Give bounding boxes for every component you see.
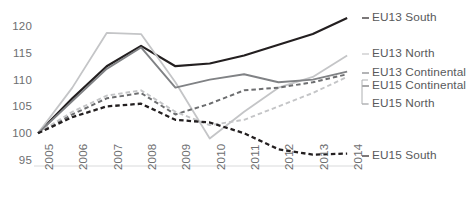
legend-label-eu15-continental: EU15 Continental (372, 79, 466, 92)
x-axis-tick-label: 2014 (352, 144, 364, 170)
y-axis-tick-label: 110 (4, 74, 32, 86)
series-line-eu15-north (38, 77, 347, 133)
y-axis-tick-label: 105 (4, 100, 32, 112)
legend-bracket-icon (362, 80, 368, 104)
y-axis-tick-label: 120 (4, 20, 32, 32)
legend-label-eu15-south: EU15 South (372, 149, 437, 162)
x-axis-tick-label: 2007 (112, 144, 124, 170)
x-axis-tick-label: 2011 (249, 144, 261, 170)
x-axis-tick-label: 2008 (146, 144, 158, 170)
x-axis-tick-label: 2010 (215, 144, 227, 170)
x-axis-tick-label: 2006 (77, 144, 89, 170)
series-line-eu13-continental (38, 47, 347, 133)
x-axis-tick-label: 2012 (283, 144, 295, 170)
legend-label-eu13-south: EU13 South (372, 11, 437, 24)
series-group (38, 18, 347, 155)
y-axis-tick-label: 95 (4, 154, 32, 166)
y-axis-tick-label: 100 (4, 127, 32, 139)
x-axis-tick-label: 2013 (318, 144, 330, 170)
series-line-eu13-south (38, 18, 347, 133)
legend-label-eu15-north: EU15 North (372, 97, 435, 110)
x-axis-tick-label: 2005 (43, 144, 55, 170)
legend-label-eu13-north: EU13 North (372, 47, 435, 60)
x-axis-tick-label: 2009 (180, 144, 192, 170)
y-axis-tick-label: 115 (4, 47, 32, 59)
legend-leader-lines (362, 18, 369, 156)
